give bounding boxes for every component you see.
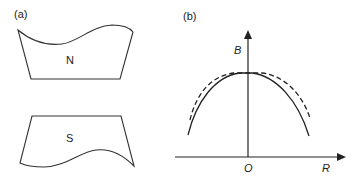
diagram-canvas: (a) N S (b) B O R [0,0,361,179]
y-axis-arrow-icon [244,30,252,39]
dashed-field-profile [190,73,310,120]
south-pole-piece: S [20,116,134,167]
x-axis-label: R [322,162,330,174]
north-pole-label: N [66,54,74,66]
south-pole-label: S [66,132,73,144]
origin-label: O [244,162,253,174]
north-pole-piece: N [18,25,133,79]
panel-a-label: (a) [14,8,27,20]
y-axis-label: B [234,44,241,56]
x-axis-arrow-icon [337,153,346,161]
panel-b-label: (b) [183,10,196,22]
